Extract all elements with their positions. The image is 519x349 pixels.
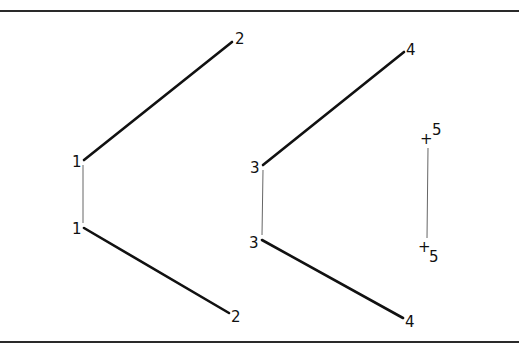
group-1-end-label-upper: 2 [235, 30, 245, 48]
diagram-canvas: 1 1 2 2 3 3 4 4 + 5 + 5 [0, 0, 519, 349]
group-3-label-lower: 5 [429, 248, 439, 266]
group-3-connector [427, 148, 428, 238]
group-2-connector [262, 170, 263, 235]
group-2-label-upper: 3 [250, 159, 260, 177]
group-2-lower-line [262, 240, 403, 318]
group-1-lower-line [84, 228, 229, 313]
group-1-label-lower: 1 [72, 220, 82, 238]
group-2-end-label-upper: 4 [406, 41, 416, 59]
group-2-end-label-lower: 4 [405, 313, 415, 331]
group-1-upper-line [84, 42, 232, 160]
group-1-end-label-lower: 2 [231, 308, 241, 326]
group-3-label-upper: 5 [432, 121, 442, 139]
group-2-label-lower: 3 [249, 234, 259, 252]
group-3-marker-upper: + [420, 130, 433, 148]
group-2: 3 3 4 4 [249, 41, 416, 331]
group-3: + 5 + 5 [418, 121, 442, 266]
group-1-label-upper: 1 [72, 153, 82, 171]
group-2-upper-line [263, 52, 404, 165]
group-1: 1 1 2 2 [72, 30, 245, 326]
